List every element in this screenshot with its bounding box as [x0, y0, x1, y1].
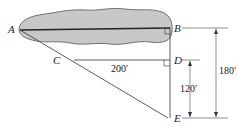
dimension-label-be: 180′ — [219, 65, 236, 76]
dimension-label-de: 120′ — [180, 83, 197, 94]
arrowhead-icon — [188, 112, 192, 117]
point-label-e: E — [173, 112, 181, 124]
right-angle-d — [164, 60, 170, 66]
arrowhead-icon — [214, 112, 218, 117]
point-label-c: C — [53, 54, 61, 66]
point-label-d: D — [173, 54, 182, 66]
arrowhead-icon — [214, 29, 218, 34]
dimension-label-cd: 200′ — [111, 63, 128, 74]
lake-shape — [19, 8, 172, 44]
point-label-b: B — [174, 22, 181, 34]
similar-triangles-diagram: A B C D E 200′ 120′ 180′ — [0, 0, 239, 134]
arrowhead-icon — [188, 61, 192, 66]
point-label-a: A — [7, 23, 15, 35]
